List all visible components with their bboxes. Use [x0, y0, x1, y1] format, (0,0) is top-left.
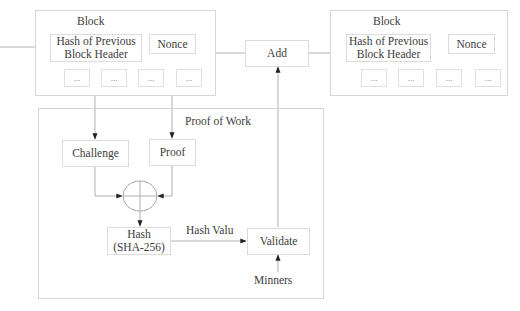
prev-hash-line1: Hash of Previous	[56, 35, 135, 47]
block-2-field-3: ...	[436, 69, 462, 87]
validate-node: Validate	[247, 228, 310, 255]
block-1-field-1: ...	[64, 69, 90, 87]
prev-hash-line2: Block Header	[357, 48, 421, 60]
block-1-field-2: ...	[101, 69, 127, 87]
prev-hash-line1: Hash of Previous	[349, 35, 428, 47]
hash-value-label: Hash Valu	[186, 224, 233, 236]
challenge-node: Challenge	[62, 140, 129, 167]
miners-label: Minners	[254, 274, 292, 286]
block-1-field-4: ...	[176, 69, 202, 87]
add-node: Add	[245, 40, 309, 67]
block-2-nonce-field: Nonce	[448, 34, 495, 54]
block-1-title: Block	[77, 15, 104, 27]
proof-of-work-container	[38, 108, 324, 299]
prev-hash-line2: Block Header	[64, 48, 128, 60]
hash-line2: (SHA-256)	[113, 241, 165, 253]
block-1-prev-hash-field: Hash of PreviousBlock Header	[50, 34, 142, 62]
hash-line1: Hash	[127, 228, 151, 240]
block-2-title: Block	[373, 15, 400, 27]
hash-sha256-node: Hash(SHA-256)	[107, 227, 171, 255]
proof-node: Proof	[149, 139, 196, 166]
block-2-field-2: ...	[398, 69, 424, 87]
block-1-field-3: ...	[138, 69, 164, 87]
block-2-field-1: ...	[361, 69, 387, 87]
proof-of-work-title: Proof of Work	[185, 115, 251, 127]
block-1-nonce-field: Nonce	[149, 34, 196, 54]
block-2-field-4: ...	[475, 69, 501, 87]
block-2-prev-hash-field: Hash of PreviousBlock Header	[346, 34, 431, 62]
